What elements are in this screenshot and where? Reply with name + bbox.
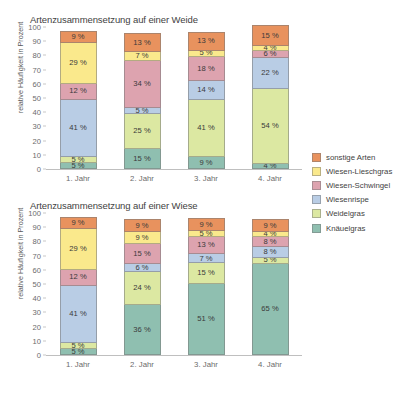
legend-label: Weidelgras — [326, 209, 365, 218]
bar-segment-label: 41 % — [69, 124, 86, 132]
x-axis-labels: 1. Jahr2. Jahr3. Jahr4. Jahr — [46, 357, 302, 371]
stacked-bar[interactable]: 5 %5 %41 %12 %29 %9 % — [60, 213, 97, 355]
bar-segment: 36 % — [124, 304, 161, 355]
y-tick-label: 0 — [37, 165, 41, 174]
legend-color-swatch — [312, 167, 321, 176]
bar-segment-label: 5 % — [135, 107, 148, 114]
y-tick-label: 30 — [33, 308, 41, 317]
stacked-bar[interactable]: 51 %15 %7 %13 %5 %9 % — [188, 213, 225, 355]
bar-segment-label: 41 % — [69, 310, 86, 318]
y-tick-label: 50 — [33, 94, 41, 103]
bar-segment-label: 8 % — [263, 238, 276, 246]
plot-wrapper: relative Häufigkeit in Prozent 010203040… — [0, 27, 310, 179]
y-tick-label: 30 — [33, 122, 41, 131]
stacked-bar[interactable]: 9 %41 %14 %18 %5 %13 % — [188, 27, 225, 169]
bar-segment-label: 29 % — [69, 59, 86, 67]
bar-segment: 13 % — [124, 33, 161, 51]
bar-segment-label: 9 % — [71, 33, 84, 41]
stacked-bar[interactable]: 65 %5 %8 %8 %4 %9 % — [252, 213, 289, 355]
legend-item[interactable]: Knäuelgras — [312, 221, 418, 235]
bar-segment: 6 % — [252, 50, 289, 59]
bar-segment: 9 % — [124, 231, 161, 244]
bar-segment: 13 % — [188, 236, 225, 254]
bar-segment: 9 % — [252, 219, 289, 232]
x-axis-label: 2. Jahr — [112, 174, 172, 183]
y-tick-label: 80 — [33, 51, 41, 60]
stacked-bar[interactable]: 5 %5 %41 %12 %29 %9 % — [60, 27, 97, 169]
bar-segment-label: 22 % — [261, 69, 278, 77]
bar-segment-label: 15 % — [133, 250, 150, 258]
bar-segment-label: 5 % — [263, 257, 276, 264]
y-tick-label: 20 — [33, 322, 41, 331]
y-tick-label: 60 — [33, 265, 41, 274]
chart-title: Artenzusammensetzung auf einer Weide — [30, 14, 310, 25]
bar-segment: 15 % — [124, 243, 161, 264]
bar-segment: 6 % — [124, 263, 161, 272]
bar-segment: 5 % — [188, 230, 225, 237]
x-axis-labels: 1. Jahr2. Jahr3. Jahr4. Jahr — [46, 171, 302, 185]
stacked-bar[interactable]: 15 %25 %5 %34 %7 %13 % — [124, 27, 161, 169]
bar-segment: 41 % — [188, 99, 225, 157]
y-tick-label: 0 — [37, 351, 41, 360]
legend-item[interactable]: Wiesen-Schwingel — [312, 178, 418, 192]
stacked-bar[interactable]: 4 %54 %22 %6 %4 %15 % — [252, 27, 289, 169]
bar-segment: 13 % — [188, 32, 225, 50]
bar-segment: 18 % — [188, 56, 225, 82]
bar-segment-label: 9 % — [71, 219, 84, 227]
legend-item[interactable]: Weidelgras — [312, 207, 418, 221]
stacked-bar[interactable]: 36 %24 %6 %15 %9 %9 % — [124, 213, 161, 355]
bar-segment-label: 5 % — [71, 156, 84, 163]
y-tick-label: 50 — [33, 280, 41, 289]
chart-title: Artenzusammensetzung auf einer Wiese — [30, 200, 310, 211]
bar-segment: 12 % — [60, 269, 97, 286]
bar-segment-label: 12 % — [69, 273, 86, 281]
figure-root: Artenzusammensetzung auf einer Weide rel… — [0, 0, 418, 395]
bar-segment-label: 9 % — [199, 221, 212, 229]
legend-item[interactable]: sonstige Arten — [312, 150, 418, 164]
legend-label: Knäuelgras — [326, 224, 365, 233]
bar-segment: 5 % — [60, 162, 97, 169]
y-axis-ticks: 0102030405060708090100 — [18, 213, 44, 355]
x-axis-label: 1. Jahr — [48, 360, 108, 369]
bar-segment-label: 15 % — [261, 32, 278, 40]
bar-segment: 51 % — [188, 283, 225, 355]
bar-segment-label: 18 % — [197, 65, 214, 73]
bar-segment: 5 % — [252, 257, 289, 264]
bar-segment-label: 12 % — [69, 87, 86, 95]
bar-segment: 41 % — [60, 285, 97, 343]
bar-segment: 29 % — [60, 228, 97, 269]
plot-area: 5 %5 %41 %12 %29 %9 %36 %24 %6 %15 %9 %9… — [46, 213, 302, 356]
chart-weide: Artenzusammensetzung auf einer Weide rel… — [0, 14, 310, 200]
bar-segment: 9 % — [60, 217, 97, 230]
legend-color-swatch — [312, 153, 321, 162]
bar-segment: 41 % — [60, 99, 97, 157]
legend-color-swatch — [312, 209, 321, 218]
y-tick-label: 100 — [28, 209, 41, 218]
bar-segment: 15 % — [252, 25, 289, 46]
bar-segment: 9 % — [124, 219, 161, 232]
bar-segment: 5 % — [60, 156, 97, 163]
y-tick-label: 90 — [33, 37, 41, 46]
y-axis-ticks: 0102030405060708090100 — [18, 27, 44, 169]
bar-segment: 54 % — [252, 88, 289, 165]
bar-segment: 5 % — [60, 348, 97, 355]
legend-color-swatch — [312, 181, 321, 190]
x-axis-label: 3. Jahr — [176, 360, 236, 369]
bar-segment-label: 51 % — [197, 315, 214, 323]
legend-label: Wiesenrispe — [326, 195, 369, 204]
legend-item[interactable]: Wiesen-Lieschgras — [312, 164, 418, 178]
legend-label: Wiesen-Schwingel — [326, 181, 390, 190]
bar-segment: 8 % — [252, 236, 289, 247]
y-tick-label: 40 — [33, 294, 41, 303]
bar-segment: 25 % — [124, 113, 161, 149]
bar-segment-label: 9 % — [263, 222, 276, 230]
bar-segment-label: 5 % — [199, 50, 212, 57]
bar-segment-label: 9 % — [199, 159, 212, 167]
bar-segment-label: 65 % — [261, 305, 278, 313]
bar-segment-label: 14 % — [197, 86, 214, 94]
bar-segment-label: 5 % — [199, 230, 212, 237]
legend-item[interactable]: Wiesenrispe — [312, 193, 418, 207]
bar-segment: 15 % — [188, 262, 225, 283]
plot-wrapper: relative Häufigkeit in Prozent 010203040… — [0, 213, 310, 365]
bar-segment-label: 6 % — [263, 50, 276, 58]
